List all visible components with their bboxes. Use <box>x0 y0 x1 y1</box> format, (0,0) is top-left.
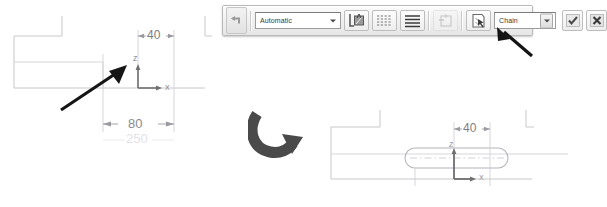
hatch-pattern-solid-button[interactable] <box>400 10 425 31</box>
remove-boundary-icon <box>438 13 454 28</box>
material-combo-value: Automatic <box>260 17 292 24</box>
sketch-after-canvas[interactable]: Z X 40 <box>318 108 569 207</box>
undo-arrow-glyph <box>230 14 243 27</box>
sketch-before-canvas[interactable]: Z X 40 80 250 <box>0 14 220 144</box>
hatch-boundary-icon <box>348 12 366 29</box>
dimension-250-label[interactable]: 250 <box>126 132 148 145</box>
checkmark-icon <box>566 14 580 27</box>
cancel-button[interactable] <box>586 10 607 31</box>
dimension-40-label[interactable]: 40 <box>463 122 476 134</box>
hatch-pattern-dashed-button[interactable] <box>372 10 397 31</box>
toolbar-separator <box>461 11 463 31</box>
dimension-80-label[interactable]: 80 <box>128 117 142 130</box>
close-x-icon <box>590 14 604 27</box>
sketch-after-geometry <box>318 108 569 207</box>
toolbar-separator <box>428 11 430 31</box>
axis-label-z: Z <box>133 55 137 62</box>
remove-boundary-button <box>433 10 458 31</box>
dashed-lines-icon <box>375 13 394 28</box>
pick-points-icon <box>470 13 487 29</box>
chevron-down-icon[interactable] <box>327 14 338 27</box>
select-boundary-button[interactable] <box>466 10 491 31</box>
solid-lines-icon <box>403 13 422 28</box>
material-combo[interactable]: Automatic <box>255 12 341 29</box>
pattern-combo-value: Chain <box>499 17 518 24</box>
pattern-combo[interactable]: Chain <box>494 12 556 29</box>
hatch-boundary-button[interactable] <box>344 10 369 31</box>
accept-button[interactable] <box>562 10 583 31</box>
dimension-40-label[interactable]: 40 <box>147 29 160 41</box>
result-curved-arrow <box>248 108 310 160</box>
chevron-down-icon[interactable] <box>540 13 553 28</box>
command-options-toolbar[interactable]: Automatic <box>222 5 533 36</box>
undo-arrow-icon[interactable] <box>226 7 247 34</box>
axis-label-z: Z <box>449 141 453 148</box>
toolbar-separator <box>250 11 252 31</box>
axis-label-x: X <box>479 174 484 181</box>
axis-label-x: X <box>165 84 170 91</box>
sketch-before-geometry <box>0 14 220 144</box>
